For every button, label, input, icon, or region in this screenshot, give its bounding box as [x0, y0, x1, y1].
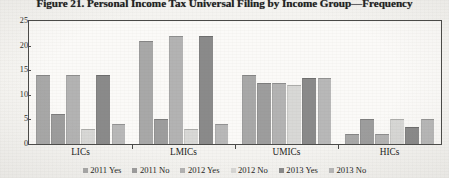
bars-plot-area: [29, 21, 441, 144]
bar: [199, 36, 213, 144]
bar: [318, 78, 332, 144]
y-axis-tick-label: 20: [10, 42, 28, 50]
legend-item: 2012 Yes: [180, 166, 219, 175]
bar-group: [235, 21, 338, 144]
figure-title: Figure 21. Personal Income Tax Universal…: [0, 0, 449, 12]
bar: [139, 41, 153, 144]
bar: [421, 119, 435, 144]
y-axis-tick-label: 0: [10, 140, 28, 148]
bar: [405, 127, 419, 144]
legend-item: 2011 Yes: [83, 166, 122, 175]
bar: [169, 36, 183, 144]
bar: [215, 124, 229, 144]
bar: [66, 75, 80, 144]
x-axis-category-label: UMICs: [235, 147, 338, 157]
bar: [360, 119, 374, 144]
bar: [257, 83, 271, 145]
legend-swatch-icon: [231, 168, 236, 173]
bar: [184, 129, 198, 144]
bar: [96, 75, 110, 144]
bar: [36, 75, 50, 144]
bar-group: [132, 21, 235, 144]
x-axis-separator-tick: [338, 145, 339, 149]
legend-item: 2011 No: [132, 166, 169, 175]
bar-group: [29, 21, 132, 144]
bar: [287, 85, 301, 144]
x-axis-separator-tick: [235, 145, 236, 149]
bar: [272, 83, 286, 145]
bar: [154, 119, 168, 144]
x-axis-separator-tick: [132, 145, 133, 149]
legend-swatch-icon: [329, 168, 334, 173]
legend-swatch-icon: [83, 168, 88, 173]
legend-swatch-icon: [132, 168, 137, 173]
bar: [345, 134, 359, 144]
legend-label: 2011 No: [140, 166, 170, 175]
legend-label: 2013 No: [336, 166, 366, 175]
legend-item: 2013 No: [329, 166, 366, 175]
legend-item: 2013 Yes: [279, 166, 318, 175]
legend-swatch-icon: [180, 168, 185, 173]
bar: [51, 114, 65, 144]
bar: [375, 134, 389, 144]
legend-label: 2012 No: [238, 166, 268, 175]
legend-label: 2013 Yes: [286, 166, 318, 175]
y-axis-tick-label: 5: [10, 115, 28, 123]
figure-page: Figure 21. Personal Income Tax Universal…: [0, 0, 449, 178]
y-axis-tick-label: 15: [10, 66, 28, 74]
y-axis: 0510152025: [0, 20, 28, 145]
bar-group: [338, 21, 441, 144]
legend-label: 2011 Yes: [90, 166, 121, 175]
chart-legend: 2011 Yes2011 No2012 Yes2012 No2013 Yes20…: [0, 163, 449, 177]
x-axis-category-label: HICs: [338, 147, 441, 157]
bar: [390, 119, 404, 144]
x-axis-category-label: LICs: [29, 147, 132, 157]
y-axis-tick-label: 10: [10, 91, 28, 99]
legend-swatch-icon: [279, 168, 284, 173]
x-axis-category-label: LMICs: [132, 147, 235, 157]
bar: [242, 75, 256, 144]
y-axis-tick-label: 25: [10, 17, 28, 25]
bar: [302, 78, 316, 144]
bar: [81, 129, 95, 144]
bar: [112, 124, 126, 144]
legend-item: 2012 No: [231, 166, 268, 175]
legend-label: 2012 Yes: [188, 166, 220, 175]
